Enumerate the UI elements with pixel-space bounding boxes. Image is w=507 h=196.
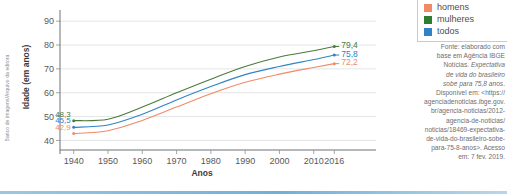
source-line-5-tail: . — [503, 80, 505, 87]
gridlines — [56, 21, 376, 140]
x-tick-label-1970: 1970 — [167, 156, 187, 166]
source-line-7: agenciadenoticias.ibge.gov. — [424, 98, 505, 105]
x-tick-labels: 194019501960197019801990200020102016 — [64, 156, 345, 166]
x-tick-label-1990: 1990 — [235, 156, 255, 166]
legend-item-mulheres: mulheres — [424, 14, 503, 25]
y-tick-label-90: 90 — [44, 16, 54, 26]
line-chart: Idade (em anos) 405060708090 19401950196… — [16, 2, 388, 184]
source-line-4: de vida do brasileiro — [446, 71, 505, 78]
series-line-homens — [74, 64, 335, 134]
series-value-labels: 48,379,445,575,842,972,2 — [55, 40, 358, 132]
legend-item-homens: homens — [424, 2, 503, 13]
source-line-5: sobe para 75,8 anos — [443, 80, 503, 87]
source-note: Fonte: elaborado com base em Agência IBG… — [385, 42, 505, 162]
legend-label-todos: todos — [437, 26, 459, 37]
x-tick-label-1940: 1940 — [64, 156, 84, 166]
series-line-mulheres — [74, 46, 335, 120]
y-tick-label-80: 80 — [44, 40, 54, 50]
source-line-8: br/agencia-noticias/2012- — [431, 107, 505, 114]
source-line-3: Notícias. — [443, 61, 470, 68]
source-line-2: base em Agência IBGE — [437, 52, 505, 59]
source-line-11: de-vida-do-brasileiro-sobe- — [426, 135, 505, 142]
series-end-label-homens: 72,2 — [341, 57, 358, 67]
y-tick-label-70: 70 — [44, 64, 54, 74]
y-tick-label-40: 40 — [44, 136, 54, 146]
x-tick-label-2010: 2010 — [304, 156, 324, 166]
source-line-10: noticias/18469-expectativa- — [425, 126, 505, 133]
legend-item-todos: todos — [424, 26, 503, 37]
legend-label-mulheres: mulheres — [437, 14, 474, 25]
series-endpoint-markers — [72, 45, 339, 135]
y-tick-label-50: 50 — [44, 112, 54, 122]
source-line-9: agencia-de-noticias/ — [446, 117, 505, 124]
series-marker-mulheres-start — [72, 119, 75, 122]
plot-svg: 405060708090 194019501960197019801990200… — [34, 4, 386, 184]
series-marker-homens-start — [72, 132, 75, 135]
source-line-3-italic: Expectativa — [471, 61, 505, 68]
bottom-divider — [0, 191, 507, 194]
source-line-6: Disponível em: <https:// — [436, 89, 505, 96]
plot-area: 405060708090 194019501960197019801990200… — [34, 4, 386, 184]
image-credit: Banco de imagens/Arquivo da editora — [0, 0, 14, 196]
x-tick-label-2000: 2000 — [269, 156, 289, 166]
x-tick-label-1960: 1960 — [132, 156, 152, 166]
legend-swatch-todos — [424, 28, 432, 36]
x-axis-title: Anos — [16, 168, 388, 178]
source-line-1: Fonte: elaborado com — [441, 43, 505, 50]
image-credit-text: Banco de imagens/Arquivo da editora — [4, 55, 10, 142]
series-start-label-homens: 42,9 — [55, 123, 71, 132]
legend-swatch-homens — [424, 4, 432, 12]
legend-label-homens: homens — [437, 2, 469, 13]
x-tick-label-2016: 2016 — [324, 156, 344, 166]
series-marker-todos-start — [72, 126, 75, 129]
source-line-12: para-75-8-anos>. Acesso — [431, 144, 505, 151]
chart-legend: homens mulheres todos — [417, 0, 507, 42]
x-tick-label-1980: 1980 — [201, 156, 221, 166]
y-axis-title-text: Idade (em anos) — [21, 45, 31, 110]
y-tick-label-60: 60 — [44, 88, 54, 98]
axis-lines — [60, 10, 376, 154]
y-axis-title: Idade (em anos) — [18, 2, 34, 152]
x-tick-label-1950: 1950 — [98, 156, 118, 166]
series-lines — [74, 46, 335, 133]
legend-swatch-mulheres — [424, 16, 432, 24]
source-line-13: em: 7 fev. 2019. — [458, 153, 505, 160]
y-tick-labels: 405060708090 — [44, 16, 54, 145]
